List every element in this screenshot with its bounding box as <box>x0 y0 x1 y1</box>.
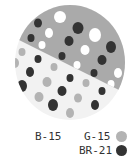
legend-label-g15: G-15 <box>84 131 111 143</box>
gray-dot-icon <box>116 131 127 142</box>
pattern-swatch <box>15 5 125 120</box>
legend-label-br21: BR-21 <box>79 145 112 157</box>
dark-dot-icon <box>116 145 127 156</box>
legend-label-b15: B-15 <box>35 131 62 143</box>
